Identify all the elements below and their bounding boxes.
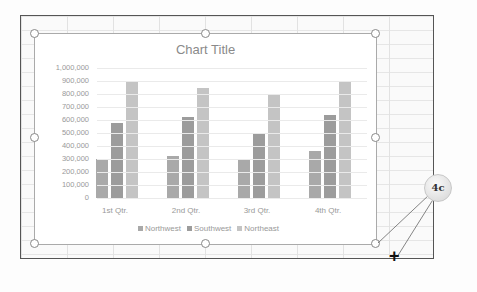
callout-leader-lines (0, 0, 477, 292)
crosshair-cursor-icon: + (389, 247, 400, 265)
step-callout-badge: 4c (424, 174, 452, 202)
